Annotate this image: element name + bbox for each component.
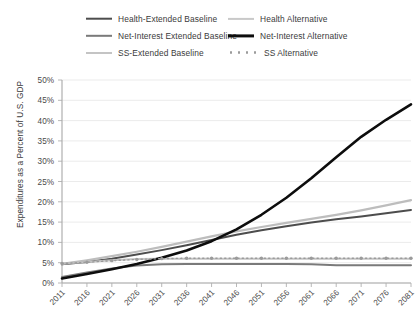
series-marker	[359, 257, 362, 260]
legend-swatch-dotted-icon	[228, 48, 258, 58]
chart-svg: 0%5%10%15%20%25%30%35%40%45%50% 20112016…	[0, 62, 419, 322]
legend-swatch-line-icon	[86, 31, 112, 41]
legend-label: Net-Interest Alternative	[260, 31, 348, 41]
legend-item-health-extended-baseline: Health-Extended Baseline	[86, 10, 228, 27]
legend-item-ss-alternative: SS Alternative	[228, 44, 408, 61]
x-tick-label: 2026	[122, 288, 142, 308]
x-tick-labels: 2011201620212026203120362041204620512056…	[48, 288, 416, 308]
legend-swatch-line-icon	[228, 31, 254, 41]
y-tick-label: 0%	[42, 279, 54, 288]
legend-item-health-alternative: Health Alternative	[228, 10, 408, 27]
series-marker	[235, 257, 238, 260]
legend-label: Net-Interest Extended Baseline	[118, 31, 237, 41]
legend-label: Health Alternative	[260, 14, 327, 24]
legend-label: Health-Extended Baseline	[118, 14, 217, 24]
x-tick-label: 2036	[172, 288, 192, 308]
x-tick-label: 2011	[48, 288, 67, 307]
x-tick-label: 2076	[372, 288, 392, 308]
x-tick-label: 2046	[222, 288, 242, 308]
y-tick-label: 50%	[38, 76, 54, 85]
y-tick-marks	[58, 80, 62, 283]
y-axis-label: Expenditures as a Percent of U.S. GDP	[16, 55, 25, 255]
y-tick-label: 10%	[38, 238, 54, 247]
data-series-layer	[60, 104, 412, 278]
y-tick-label: 45%	[38, 96, 54, 105]
x-tick-label: 2056	[272, 288, 292, 308]
x-tick-label: 2031	[147, 288, 167, 308]
legend-swatch-line-icon	[86, 48, 112, 58]
y-tick-labels: 0%5%10%15%20%25%30%35%40%45%50%	[38, 76, 54, 288]
y-tick-label: 25%	[38, 178, 54, 187]
y-tick-label: 30%	[38, 157, 54, 166]
series-line-health-alternative	[62, 200, 411, 264]
series-line-net-interest-extended-baseline	[62, 264, 411, 277]
y-tick-label: 5%	[42, 259, 54, 268]
x-tick-marks	[62, 283, 411, 287]
series-marker	[285, 257, 288, 260]
chart-container: Health-Extended Baseline Health Alternat…	[0, 0, 419, 322]
series-marker	[409, 257, 412, 260]
x-tick-label: 2071	[347, 288, 367, 308]
legend-swatch-line-icon	[228, 14, 254, 24]
gridlines	[62, 80, 411, 283]
legend-item-ss-extended-baseline: SS-Extended Baseline	[86, 44, 228, 61]
plot-area: Expenditures as a Percent of U.S. GDP 0%…	[0, 62, 419, 322]
series-marker	[185, 257, 188, 260]
legend-label: SS-Extended Baseline	[118, 48, 204, 58]
series-marker	[384, 257, 387, 260]
x-tick-label: 2081	[397, 288, 417, 308]
legend-swatch-line-icon	[86, 14, 112, 24]
chart-legend: Health-Extended Baseline Health Alternat…	[86, 10, 408, 62]
x-tick-label: 2016	[73, 288, 93, 308]
x-tick-label: 2041	[197, 288, 217, 308]
legend-item-net-interest-extended-baseline: Net-Interest Extended Baseline	[86, 27, 228, 44]
series-marker	[110, 259, 113, 262]
y-tick-label: 20%	[38, 198, 54, 207]
series-marker	[335, 257, 338, 260]
x-tick-label: 2021	[98, 288, 118, 308]
legend-item-net-interest-alternative: Net-Interest Alternative	[228, 27, 408, 44]
y-tick-label: 40%	[38, 117, 54, 126]
series-marker	[260, 257, 263, 260]
series-marker	[135, 258, 138, 261]
series-line-net-interest-alternative	[62, 104, 411, 278]
series-marker	[310, 257, 313, 260]
series-marker	[160, 257, 163, 260]
y-tick-label: 35%	[38, 137, 54, 146]
y-tick-label: 15%	[38, 218, 54, 227]
series-marker	[210, 257, 213, 260]
series-marker	[60, 262, 63, 265]
x-tick-label: 2051	[247, 288, 267, 308]
series-marker	[85, 261, 88, 264]
legend-label: SS Alternative	[264, 48, 318, 58]
x-tick-label: 2066	[322, 288, 342, 308]
x-tick-label: 2061	[297, 288, 317, 308]
